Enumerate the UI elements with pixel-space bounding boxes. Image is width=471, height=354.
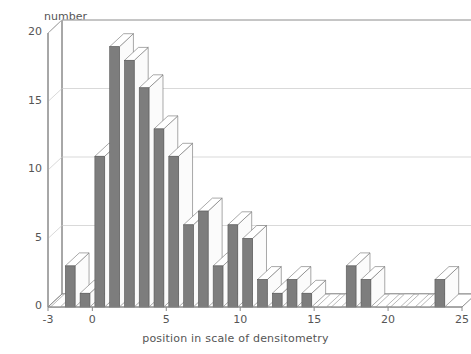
- bar-front: [65, 266, 75, 307]
- bar-front: [198, 211, 208, 307]
- bar-front: [169, 156, 179, 307]
- bar-front: [110, 47, 120, 307]
- gridline-depth-5: [48, 226, 62, 239]
- bar-front: [80, 293, 90, 307]
- gridline-depth-20: [48, 20, 62, 33]
- bar-front: [287, 280, 297, 307]
- bar-front: [272, 293, 282, 307]
- bar-front: [228, 225, 238, 307]
- bar-front: [243, 239, 253, 308]
- bar-front: [302, 293, 312, 307]
- bar-front: [346, 266, 356, 307]
- gridline-depth-15: [48, 89, 62, 102]
- x-axis-label: position in scale of densitometry: [142, 332, 329, 345]
- chart-figure: number 05101520 -30510152025 position in…: [0, 0, 471, 354]
- gridline-depth-10: [48, 157, 62, 170]
- bar-front: [95, 156, 105, 307]
- bar-front: [139, 88, 149, 307]
- bar-front: [361, 280, 371, 307]
- bar-front: [154, 129, 164, 307]
- bar-front: [213, 266, 223, 307]
- bar-front: [124, 60, 134, 307]
- chart-plot-area: [0, 0, 471, 354]
- bars-group: [51, 34, 459, 307]
- bar-front: [258, 280, 268, 307]
- bar-front: [435, 280, 445, 307]
- bar-front: [184, 225, 194, 307]
